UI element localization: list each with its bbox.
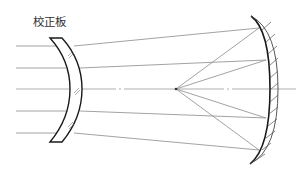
corrector-plate [50,38,82,142]
mirror-hatching [256,22,278,160]
spherical-mirror [250,16,278,164]
incoming-rays [16,46,66,133]
focal-point [175,88,178,91]
schmidt-camera-diagram [0,0,305,173]
